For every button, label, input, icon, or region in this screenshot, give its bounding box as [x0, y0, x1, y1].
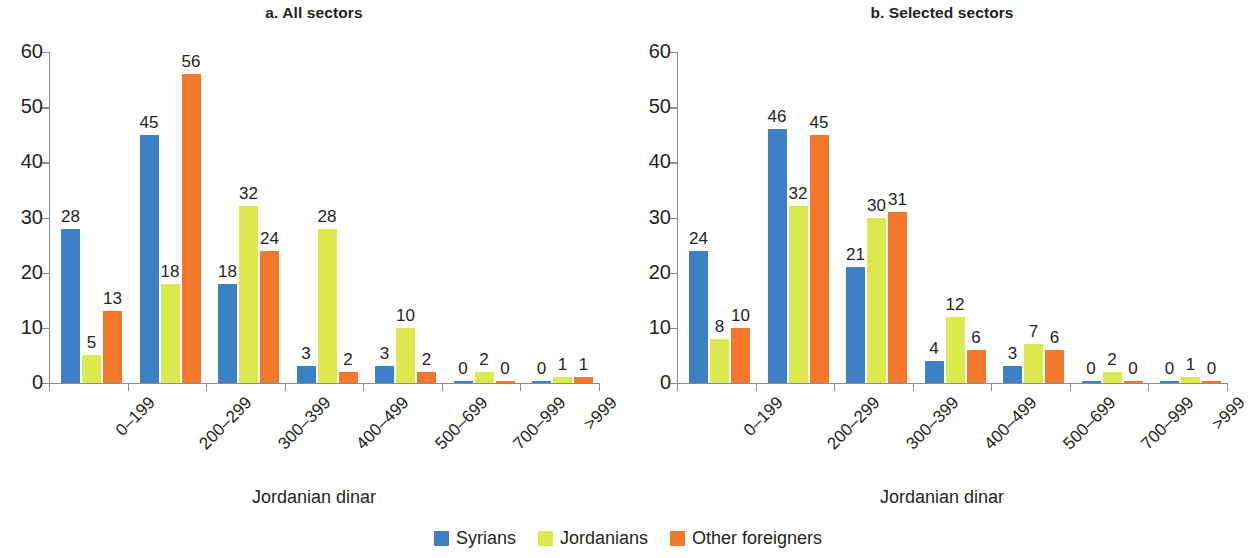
panel-title-b: b. Selected sectors [628, 4, 1256, 22]
bar-other-foreigners: 13 [103, 311, 122, 383]
bar-value-label: 30 [867, 197, 886, 215]
bar-jordanians: 10 [396, 328, 415, 383]
y-tick-mark [670, 52, 677, 53]
bar-syrians: 0 [532, 381, 551, 383]
x-tick-label: 200–299 [823, 393, 883, 453]
bar-other-foreigners: 10 [731, 328, 750, 383]
bar-group: 183224 [218, 52, 279, 383]
bar-syrians: 21 [846, 267, 865, 383]
y-tick-label: 10 [649, 316, 671, 338]
bar-value-label: 7 [1029, 323, 1038, 341]
bar-jordanians: 30 [867, 218, 886, 384]
bar-value-label: 13 [103, 290, 122, 308]
y-tick-label: 0 [660, 371, 671, 393]
bar-syrians: 18 [218, 284, 237, 383]
bar-value-label: 1 [558, 356, 567, 374]
bar-syrians: 28 [61, 229, 80, 383]
x-axis-line [677, 383, 1228, 384]
bar-value-label: 6 [1050, 329, 1059, 347]
x-tick-label: 300–399 [902, 393, 962, 453]
panel-all-sectors: a. All sectors 0102030405060285130–19945… [0, 0, 628, 520]
bar-value-label: 45 [810, 114, 829, 132]
x-tick-mark [442, 383, 443, 391]
x-tick-mark [599, 383, 600, 391]
bar-value-label: 6 [971, 329, 980, 347]
x-tick-label: 500–699 [1059, 393, 1119, 453]
chart-legend: SyriansJordaniansOther foreigners [0, 528, 1256, 549]
x-tick-label: >999 [1208, 393, 1249, 434]
x-tick-label: >999 [580, 393, 621, 434]
bar-other-foreigners: 1 [574, 377, 593, 383]
x-tick-mark [1070, 383, 1071, 391]
x-tick-label: 0–199 [111, 393, 158, 440]
bar-other-foreigners: 0 [1202, 381, 1221, 383]
y-tick-mark [670, 383, 677, 384]
bar-value-label: 28 [61, 208, 80, 226]
x-axis-title-a: Jordanian dinar [0, 487, 628, 508]
x-tick-label: 300–399 [274, 393, 334, 453]
bar-other-foreigners: 0 [496, 381, 515, 383]
x-tick-label: 200–299 [195, 393, 255, 453]
bar-value-label: 10 [396, 307, 415, 325]
bar-value-label: 18 [161, 263, 180, 281]
bar-group: 011 [532, 52, 593, 383]
legend-label: Jordanians [560, 528, 648, 549]
bar-value-label: 21 [846, 246, 865, 264]
y-tick-label: 60 [649, 40, 671, 62]
bar-syrians: 46 [768, 129, 787, 383]
bar-value-label: 18 [218, 263, 237, 281]
x-tick-mark [206, 383, 207, 391]
panel-selected-sectors: b. Selected sectors 0102030405060248100–… [628, 0, 1256, 520]
bar-other-foreigners: 0 [1124, 381, 1143, 383]
bar-value-label: 0 [500, 360, 509, 378]
bar-value-label: 12 [946, 296, 965, 314]
bar-value-label: 4 [929, 340, 938, 358]
y-tick-label: 50 [649, 95, 671, 117]
legend-label: Syrians [456, 528, 516, 549]
x-tick-mark [49, 383, 50, 391]
y-tick-mark [42, 218, 49, 219]
bar-group: 020 [1082, 52, 1143, 383]
bar-other-foreigners: 31 [888, 212, 907, 383]
bar-value-label: 3 [380, 345, 389, 363]
bar-value-label: 46 [768, 108, 787, 126]
bar-jordanians: 7 [1024, 344, 1043, 383]
bar-value-label: 31 [888, 191, 907, 209]
bar-value-label: 1 [579, 356, 588, 374]
x-tick-mark [1148, 383, 1149, 391]
bar-group: 3282 [297, 52, 358, 383]
y-tick-mark [42, 107, 49, 108]
x-axis-title-b: Jordanian dinar [628, 487, 1256, 508]
bar-syrians: 3 [375, 366, 394, 383]
bar-value-label: 45 [140, 114, 159, 132]
bar-syrians: 24 [689, 251, 708, 383]
y-tick-label: 10 [21, 316, 43, 338]
bar-value-label: 32 [789, 185, 808, 203]
x-tick-label: 500–699 [431, 393, 491, 453]
legend-item[interactable]: Syrians [434, 528, 516, 549]
y-tick-label: 20 [21, 261, 43, 283]
bar-jordanians: 28 [318, 229, 337, 383]
y-tick-label: 60 [21, 40, 43, 62]
bar-group: 010 [1160, 52, 1221, 383]
bar-jordanians: 32 [239, 206, 258, 383]
bar-jordanians: 32 [789, 206, 808, 383]
bar-value-label: 2 [1107, 351, 1116, 369]
bar-group: 376 [1003, 52, 1064, 383]
bar-other-foreigners: 45 [810, 135, 829, 383]
legend-item[interactable]: Jordanians [538, 528, 648, 549]
y-tick-label: 20 [649, 261, 671, 283]
x-tick-label: 700–999 [509, 393, 569, 453]
bar-group: 451856 [140, 52, 201, 383]
bar-value-label: 1 [1186, 356, 1195, 374]
legend-label: Other foreigners [692, 528, 822, 549]
bar-value-label: 3 [1008, 345, 1017, 363]
bar-value-label: 3 [301, 345, 310, 363]
bar-group: 3102 [375, 52, 436, 383]
y-tick-label: 0 [32, 371, 43, 393]
x-tick-mark [756, 383, 757, 391]
plot-area-b: 0102030405060248100–199463245200–2992130… [677, 52, 1228, 383]
y-tick-mark [42, 52, 49, 53]
x-tick-mark [834, 383, 835, 391]
legend-item[interactable]: Other foreigners [670, 528, 822, 549]
